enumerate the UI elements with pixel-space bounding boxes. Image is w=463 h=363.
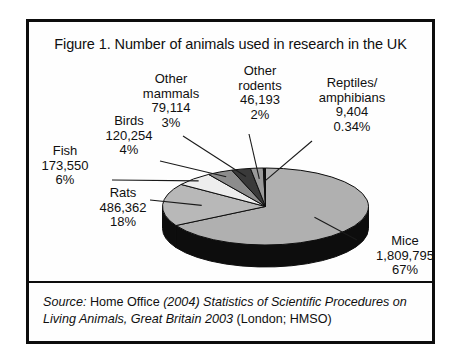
callout-other-rodents-value: 46,193 <box>222 93 298 108</box>
callout-rats-value: 486,362 <box>82 201 164 216</box>
callout-fish-name: Fish <box>24 144 106 159</box>
source-imprint: (London; HMSO) <box>236 312 331 326</box>
callout-other-rodents-name-line2: rodents <box>222 79 298 94</box>
callout-fish: Fish 173,550 6% <box>24 144 106 188</box>
source-publisher: Home Office <box>90 295 160 309</box>
source-divider <box>29 281 432 283</box>
callout-other-mammals-name-line1: Other <box>128 72 214 87</box>
callout-reptiles-name-line2: amphibians <box>304 91 400 106</box>
callout-mice: Mice 1,809,795 67% <box>362 234 448 278</box>
callout-reptiles-name-line1: Reptiles/ <box>304 76 400 91</box>
callout-other-rodents-percent: 2% <box>222 108 298 123</box>
callout-reptiles-amphibians: Reptiles/ amphibians 9,404 0.34% <box>304 76 400 134</box>
callout-reptiles-value: 9,404 <box>304 105 400 120</box>
callout-rats-percent: 18% <box>82 215 164 230</box>
callout-rats: Rats 486,362 18% <box>82 186 164 230</box>
source-note: Source: Home Office (2004) Statistics of… <box>43 294 427 327</box>
source-work-line2: Living Animals, Great Britain 2003 <box>43 312 233 326</box>
callout-reptiles-percent: 0.34% <box>304 120 400 135</box>
source-work-line1: (2004) Statistics of Scientific Procedur… <box>163 295 407 309</box>
callout-other-rodents: Other rodents 46,193 2% <box>222 64 298 122</box>
callout-mice-name: Mice <box>362 234 448 249</box>
figure-title: Figure 1. Number of animals used in rese… <box>29 36 432 52</box>
callout-birds-name: Birds <box>88 114 170 129</box>
callout-other-mammals-name-line2: mammals <box>128 87 214 102</box>
callout-other-rodents-name-line1: Other <box>222 64 298 79</box>
callout-fish-value: 173,550 <box>24 159 106 174</box>
callout-mice-value: 1,809,795 <box>362 249 448 264</box>
source-label: Source: <box>43 295 86 309</box>
callout-mice-percent: 67% <box>362 263 448 278</box>
callout-rats-name: Rats <box>82 186 164 201</box>
callout-birds-value: 120,254 <box>88 129 170 144</box>
